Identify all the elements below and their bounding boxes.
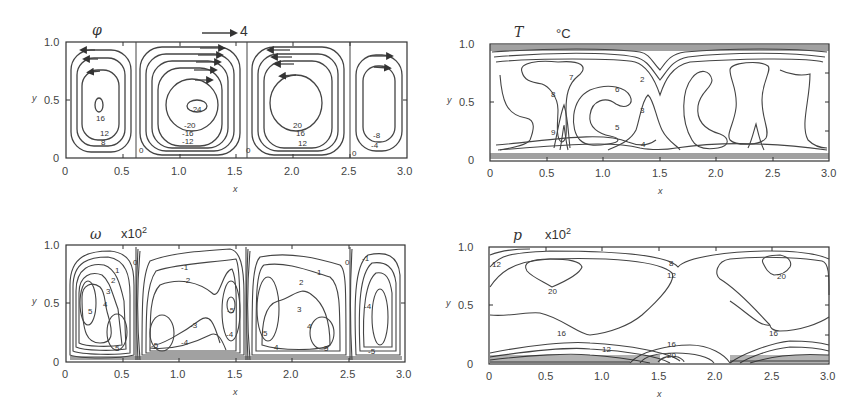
svg-text:5: 5: [263, 329, 268, 338]
x-tick-3.0: 3.0: [396, 368, 411, 380]
y-tick-0: 0: [467, 358, 473, 370]
svg-text:2: 2: [299, 278, 304, 287]
svg-text:9: 9: [551, 128, 556, 137]
x-tick-0.5: 0.5: [538, 370, 553, 382]
svg-text:-8: -8: [373, 131, 381, 140]
svg-text:20: 20: [667, 351, 676, 360]
y-tick-0.5: 0.5: [44, 94, 59, 106]
y-axis-label: y: [32, 296, 37, 306]
svg-text:8: 8: [669, 259, 674, 268]
x-tick-1.5: 1.5: [227, 368, 242, 380]
y-tick-0.5: 0.5: [458, 299, 473, 311]
x-tick-1.5: 1.5: [227, 165, 242, 177]
svg-text:16: 16: [96, 114, 105, 123]
x-tick-2.5: 2.5: [340, 368, 355, 380]
pressure-panel: p x102: [430, 205, 858, 419]
x-tick-3.0: 3.0: [397, 165, 412, 177]
y-tick-1.0: 1.0: [44, 239, 59, 251]
temperature-contour-plot: 789 65 234: [430, 0, 858, 205]
svg-text:16: 16: [667, 340, 676, 349]
svg-text:7: 7: [569, 73, 574, 82]
svg-text:-4: -4: [371, 141, 379, 150]
svg-text:-2: -2: [183, 276, 191, 285]
x-tick-1.5: 1.5: [651, 370, 666, 382]
svg-text:5: 5: [615, 123, 620, 132]
y-tick-0.5: 0.5: [459, 96, 474, 108]
svg-text:3: 3: [297, 305, 302, 314]
svg-text:16: 16: [296, 129, 305, 138]
svg-text:4: 4: [274, 343, 279, 352]
svg-text:5: 5: [115, 344, 120, 353]
svg-text:12: 12: [492, 260, 501, 269]
svg-text:12: 12: [602, 345, 611, 354]
svg-text:12: 12: [667, 271, 676, 280]
svg-text:4: 4: [307, 322, 312, 331]
y-tick-1.0: 1.0: [44, 36, 59, 48]
svg-text:0: 0: [345, 258, 350, 267]
svg-text:-24: -24: [190, 105, 202, 114]
svg-text:-5: -5: [368, 347, 376, 356]
x-tick-0: 0: [486, 370, 492, 382]
svg-text:5: 5: [88, 307, 93, 316]
svg-text:0: 0: [133, 258, 138, 267]
svg-text:-12: -12: [182, 137, 194, 146]
svg-text:-5: -5: [151, 341, 159, 350]
y-axis-label: y: [446, 298, 451, 308]
svg-text:-4: -4: [181, 338, 189, 347]
svg-text:-3: -3: [190, 321, 198, 330]
x-tick-0.5: 0.5: [114, 368, 129, 380]
y-tick-0: 0: [53, 152, 59, 164]
svg-text:4: 4: [641, 140, 646, 149]
x-tick-0: 0: [62, 368, 68, 380]
svg-text:6: 6: [615, 85, 620, 94]
svg-text:-4: -4: [364, 302, 372, 311]
svg-text:0: 0: [139, 146, 144, 155]
x-tick-2.0: 2.0: [283, 368, 298, 380]
svg-text:8: 8: [101, 138, 106, 147]
svg-text:3: 3: [640, 106, 645, 115]
phi-panel: φ 4: [0, 0, 430, 205]
svg-text:0: 0: [352, 149, 357, 158]
svg-text:16: 16: [557, 329, 566, 338]
svg-text:3: 3: [106, 287, 111, 296]
x-tick-1.0: 1.0: [171, 165, 186, 177]
svg-text:4: 4: [103, 300, 108, 309]
svg-text:1: 1: [317, 268, 322, 277]
x-tick-0: 0: [62, 165, 68, 177]
x-tick-0: 0: [487, 167, 493, 179]
x-axis-label: x: [233, 184, 238, 194]
vorticity-contour-plot: 123455 0 -1-2-3-4-5 -5-4 1234545 0-1-4-5: [0, 205, 430, 419]
x-tick-2.0: 2.0: [707, 370, 722, 382]
y-axis-label: y: [447, 95, 452, 105]
svg-text:-4: -4: [226, 330, 234, 339]
temperature-panel: T °C: [430, 0, 858, 205]
svg-text:20: 20: [777, 272, 786, 281]
x-tick-2.5: 2.5: [764, 370, 779, 382]
x-tick-0.5: 0.5: [539, 167, 554, 179]
x-tick-2.0: 2.0: [708, 167, 723, 179]
y-tick-0: 0: [53, 356, 59, 368]
svg-text:2: 2: [111, 276, 116, 285]
x-axis-label: x: [658, 186, 663, 196]
svg-text:12: 12: [298, 139, 307, 148]
x-tick-2.0: 2.0: [284, 165, 299, 177]
x-tick-0.5: 0.5: [114, 165, 129, 177]
y-tick-0: 0: [468, 154, 474, 166]
svg-text:1: 1: [115, 266, 120, 275]
svg-text:20: 20: [548, 287, 557, 296]
x-tick-1.0: 1.0: [170, 368, 185, 380]
svg-text:12: 12: [100, 129, 109, 138]
svg-text:2: 2: [640, 75, 645, 84]
x-tick-1.0: 1.0: [594, 370, 609, 382]
svg-text:5: 5: [324, 344, 329, 353]
x-tick-3.0: 3.0: [821, 167, 836, 179]
svg-text:8: 8: [551, 90, 556, 99]
x-axis-label: x: [657, 389, 662, 399]
svg-text:-1: -1: [181, 263, 189, 272]
vorticity-panel: ω x102: [0, 205, 430, 419]
x-tick-1.5: 1.5: [652, 167, 667, 179]
svg-text:16: 16: [769, 329, 778, 338]
y-tick-1.0: 1.0: [458, 241, 473, 253]
svg-text:0: 0: [246, 146, 251, 155]
pressure-contour-plot: 12201612 812 1620 2016: [430, 205, 858, 419]
